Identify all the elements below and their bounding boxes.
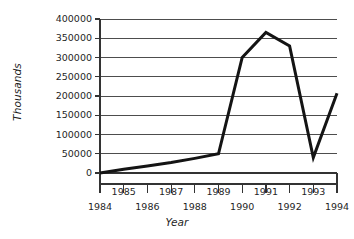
x-tick-label: 1988	[183, 202, 207, 212]
x-tick-label: 1987	[159, 187, 183, 197]
x-tick-label: 1986	[135, 202, 159, 212]
x-tick-label: 1992	[278, 202, 302, 212]
x-tick-label: 1994	[325, 202, 349, 212]
x-tick-label: 1993	[301, 187, 325, 197]
x-tick-label: 1985	[112, 187, 136, 197]
line-chart: Thousands 050000100000150000200000250000…	[0, 0, 354, 239]
x-tick-label: 1984	[88, 202, 112, 212]
x-tick-label: 1990	[230, 202, 254, 212]
x-axis-title: Year	[0, 216, 354, 228]
x-tick-label: 1989	[206, 187, 230, 197]
x-tick-label: 1991	[254, 187, 278, 197]
data-series-line	[100, 32, 337, 173]
